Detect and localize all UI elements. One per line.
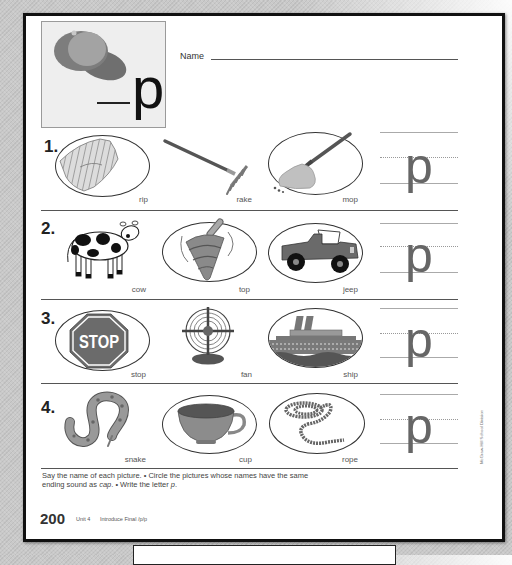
row-number: 3. (41, 310, 55, 327)
snake-icon (62, 392, 135, 450)
torn-cloth-icon (58, 137, 120, 192)
cap-icon (50, 26, 128, 84)
letter-writing-area[interactable]: p (405, 401, 433, 451)
page-number: 200 (40, 511, 65, 526)
instructions-text: . • Write the letter (111, 480, 171, 489)
row-number: 4. (41, 399, 55, 416)
name-field[interactable] (211, 59, 458, 60)
picture-label: rake (212, 196, 252, 204)
picture-label: cow (106, 286, 146, 294)
ship-icon (268, 308, 363, 368)
picture-label: stop (106, 371, 146, 379)
writing-guide-top (380, 132, 458, 133)
picture-label: snake (106, 456, 146, 464)
rake-icon (143, 138, 250, 198)
mop-icon (272, 132, 360, 195)
row-divider (41, 383, 458, 384)
stop-sign-icon: STOP (69, 313, 129, 369)
picture-label: top (210, 286, 250, 294)
picture-label: ship (318, 371, 358, 379)
fan-icon (180, 305, 236, 365)
row-divider (41, 468, 458, 469)
blank-line (97, 102, 130, 104)
unit-label: Unit 4 (76, 517, 90, 523)
instructions-text: ending sound as (42, 480, 99, 489)
cup-icon (176, 403, 246, 446)
instructions-keyword: cap (99, 480, 111, 489)
writing-guide-top (380, 223, 458, 224)
jeep-icon (278, 228, 360, 275)
row-number: 1. (44, 138, 58, 155)
instructions-line-1: Say the name of each picture. • Circle t… (42, 472, 308, 480)
instructions-text: . (175, 480, 177, 489)
row-number: 2. (41, 220, 55, 237)
picture-label: jeep (318, 286, 358, 294)
stop-sign-text: STOP (79, 332, 119, 352)
picture-label: cup (212, 456, 252, 464)
writing-guide-top (380, 394, 458, 395)
target-letter: p (132, 59, 164, 117)
next-page-edge (133, 545, 396, 565)
rope-icon (282, 400, 352, 450)
name-label: Name (180, 52, 204, 61)
picture-label: mop (318, 196, 358, 204)
row-divider (41, 210, 458, 211)
publisher-credit: McGraw-Hill School Division (480, 405, 484, 469)
writing-guide-top (380, 308, 458, 309)
spinning-top-icon (180, 222, 240, 282)
cow-icon (62, 218, 142, 282)
picture-label: fan (212, 371, 252, 379)
picture-label: rope (318, 456, 358, 464)
letter-writing-area[interactable]: p (405, 315, 433, 365)
letter-writing-area[interactable]: p (405, 141, 433, 191)
instructions-line-2: ending sound as cap. • Write the letter … (42, 481, 177, 489)
lesson-label: Introduce Final /p/p (100, 517, 147, 523)
letter-writing-area[interactable]: p (405, 230, 433, 280)
row-divider (41, 299, 458, 300)
picture-label: rip (108, 196, 148, 204)
